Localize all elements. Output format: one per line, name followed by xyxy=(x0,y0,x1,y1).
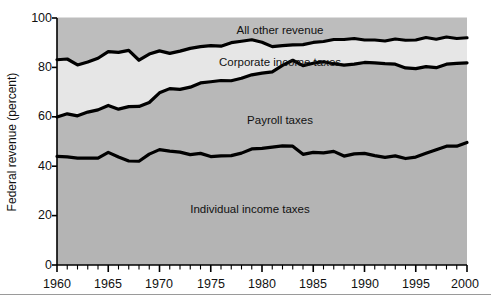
x-tick-label-1965: 1965 xyxy=(94,277,122,291)
x-tick-label-1980: 1980 xyxy=(248,277,276,291)
band-label-payroll-taxes: Payroll taxes xyxy=(247,114,313,126)
x-axis-tick-labels: 1960 1965 1970 1975 1980 1985 1990 1995 … xyxy=(43,277,479,291)
page-bottom-rule xyxy=(0,294,491,295)
y-tick-label-100: 100 xyxy=(31,11,52,25)
y-tick-label-60: 60 xyxy=(38,109,52,123)
stacked-area-chart-figure: 100 80 60 40 20 0 1960 1965 1970 1975 19… xyxy=(0,0,491,304)
y-tick-label-80: 80 xyxy=(38,60,52,74)
x-tick-label-1990: 1990 xyxy=(351,277,379,291)
y-axis-title: Federal revenue (percent) xyxy=(5,73,19,212)
band-label-corporate-income-taxes: Corporate income taxes xyxy=(219,56,341,68)
x-tick-label-1985: 1985 xyxy=(299,277,327,291)
x-tick-label-1995: 1995 xyxy=(402,277,430,291)
band-label-all-other-revenue: All other revenue xyxy=(237,24,324,36)
band-label-individual-income-taxes: Individual income taxes xyxy=(190,203,310,215)
y-axis-tick-labels: 100 80 60 40 20 0 xyxy=(31,11,52,272)
x-tick-label-1960: 1960 xyxy=(43,277,71,291)
y-tick-label-0: 0 xyxy=(45,258,52,272)
y-tick-label-20: 20 xyxy=(38,208,52,222)
x-axis-ticks xyxy=(57,265,467,272)
chart-canvas: 100 80 60 40 20 0 1960 1965 1970 1975 19… xyxy=(0,0,491,304)
x-tick-label-2000: 2000 xyxy=(451,277,479,291)
x-tick-label-1975: 1975 xyxy=(197,277,225,291)
y-tick-label-40: 40 xyxy=(38,159,52,173)
x-tick-label-1970: 1970 xyxy=(145,277,173,291)
